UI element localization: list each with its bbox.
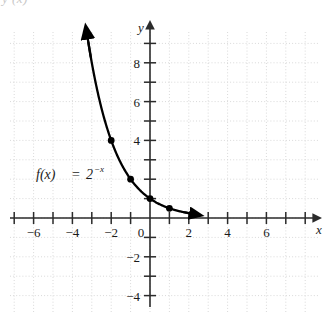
axes [10,28,314,307]
x-tick-label: 0 [138,225,145,240]
y-axis-label: y [136,20,144,35]
function-equation-label: f(x) = 2 −x [36,164,104,183]
function-exponent: −x [94,164,104,174]
y-tick-label: 4 [134,133,141,148]
data-point-marker [108,137,115,144]
data-point-marker [166,205,173,212]
data-point-marker [127,176,134,183]
x-tick-label: −4 [65,225,79,240]
y-tick-label: −4 [126,289,140,304]
y-tick-label: 6 [134,95,141,110]
function-name: f(x) [36,167,56,183]
data-point-marker [147,195,154,202]
grid-lines [10,32,318,312]
exponential-function-graph-figure: y (x) −6−4−20246 864−2−4 y x f(x) = 2 [0,0,330,315]
equals-sign: = [72,167,80,182]
x-tick-label: 2 [186,225,193,240]
marked-data-points [108,137,173,212]
function-base: 2 [86,167,93,182]
axis-ticks [14,43,305,295]
x-tick-label: 4 [224,225,231,240]
curve-lower-arrowhead [183,212,191,214]
curve-upper-arrowhead [88,37,91,57]
y-tick-label: 8 [134,56,141,71]
graph-canvas: −6−4−20246 864−2−4 y x f(x) = 2 −x [0,0,330,315]
x-tick-label: −2 [104,225,118,240]
x-axis-label: x [315,222,322,237]
x-tick-label: 6 [263,225,270,240]
x-tick-label: −6 [27,225,41,240]
y-tick-label: −2 [126,250,140,265]
